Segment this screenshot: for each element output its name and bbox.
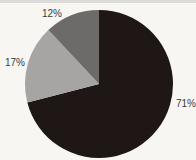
pie-chart: 71%17%12% <box>0 0 196 160</box>
slice-label: 71% <box>176 98 196 109</box>
slice-label: 12% <box>42 8 62 19</box>
slice-label: 17% <box>5 57 25 68</box>
